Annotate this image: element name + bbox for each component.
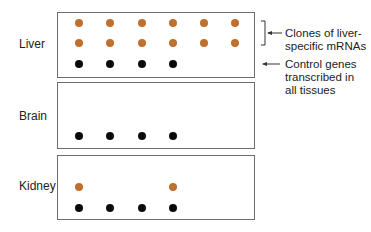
annotation-line: Clones of liver- xyxy=(285,27,366,40)
annotation-line: transcribed in xyxy=(285,71,357,84)
annotation-line: all tissues xyxy=(285,84,357,97)
arrow-left-icon xyxy=(262,62,280,66)
annotation-line: Control genes xyxy=(285,58,357,71)
arrow-left-icon xyxy=(267,31,282,35)
annotation-line: specific mRNAs xyxy=(285,40,366,53)
control-annotation: Control genes transcribed in all tissues xyxy=(285,58,357,97)
bracket-icon xyxy=(261,21,265,45)
liver-specific-annotation: Clones of liver- specific mRNAs xyxy=(285,27,366,53)
